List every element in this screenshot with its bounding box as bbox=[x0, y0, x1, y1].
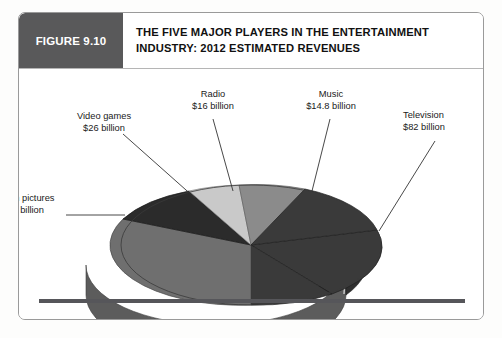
leader-line-radio bbox=[213, 119, 233, 191]
label-television: Television $82 billion bbox=[403, 110, 483, 133]
label-video-games: Video games $26 billion bbox=[59, 111, 149, 134]
figure-number-tag: FIGURE 9.10 bbox=[19, 13, 123, 68]
figure-title-line-1: THE FIVE MAJOR PLAYERS IN THE ENTERTAINM… bbox=[136, 25, 475, 41]
pie-chart-area: Radio $16 billion Music $14.8 billion Te… bbox=[19, 69, 483, 320]
leader-line-music bbox=[312, 119, 330, 191]
label-motion-pictures-name: Motion pictures bbox=[18, 193, 69, 205]
leader-line-television bbox=[379, 141, 435, 231]
figure-title: THE FIVE MAJOR PLAYERS IN THE ENTERTAINM… bbox=[123, 13, 483, 68]
label-motion-pictures-value: $76 billion bbox=[18, 205, 69, 217]
label-radio: Radio $16 billion bbox=[171, 89, 255, 112]
label-video-games-value: $26 billion bbox=[59, 123, 149, 135]
figure-title-line-2: INDUSTRY: 2012 ESTIMATED REVENUES bbox=[136, 41, 475, 57]
label-music-value: $14.8 billion bbox=[289, 101, 373, 113]
label-television-value: $82 billion bbox=[403, 122, 483, 134]
figure-number-label: FIGURE 9.10 bbox=[36, 35, 107, 47]
label-music: Music $14.8 billion bbox=[289, 89, 373, 112]
pie-top-surface bbox=[110, 185, 382, 306]
figure-screenshot: FIGURE 9.10 THE FIVE MAJOR PLAYERS IN TH… bbox=[0, 0, 502, 338]
figure-header: FIGURE 9.10 THE FIVE MAJOR PLAYERS IN TH… bbox=[19, 13, 483, 69]
label-video-games-name: Video games bbox=[59, 111, 149, 123]
leader-line-video-games bbox=[123, 134, 195, 198]
figure-frame: FIGURE 9.10 THE FIVE MAJOR PLAYERS IN TH… bbox=[18, 12, 484, 320]
label-music-name: Music bbox=[289, 89, 373, 101]
bottom-rule bbox=[39, 299, 465, 303]
label-motion-pictures: Motion pictures $76 billion bbox=[18, 193, 69, 216]
label-radio-value: $16 billion bbox=[171, 101, 255, 113]
label-radio-name: Radio bbox=[171, 89, 255, 101]
label-television-name: Television bbox=[403, 110, 483, 122]
